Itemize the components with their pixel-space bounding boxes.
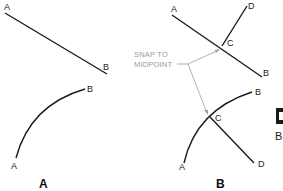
- panel-b-line-label-c: C: [227, 38, 234, 48]
- snap-leader-arrowhead-upper: [215, 49, 220, 53]
- panel-b-arc-label-b: B: [255, 87, 261, 97]
- panel-b-straight-line: [172, 15, 262, 77]
- panel-b-caption: B: [216, 177, 225, 191]
- snap-annotation-line1: SNAP TO: [134, 50, 168, 59]
- diagram-canvas: A B A B A A D C B A B C D SNAP TO MIDPOI…: [0, 0, 283, 191]
- panel-a-arc: [16, 89, 85, 158]
- panel-a-arc-label-a: A: [11, 161, 17, 171]
- panel-a-caption: A: [39, 177, 48, 191]
- panel-a-straight-line: [5, 13, 107, 74]
- snap-annotation-line2: MIDPOINT: [134, 60, 172, 69]
- clipped-right-label: B: [275, 130, 282, 142]
- panel-b-arc: [184, 92, 252, 163]
- panel-b-line-label-a: A: [171, 4, 177, 14]
- panel-b-line-label-d: D: [248, 1, 255, 11]
- panel-b: A D C B A B C D SNAP TO MIDPOINT B: [134, 1, 269, 191]
- panel-a: A B A B A: [4, 2, 109, 191]
- panel-b-arc-label-c: C: [215, 113, 222, 123]
- panel-b-branch-line-cd: [222, 6, 247, 46]
- snap-leader-arrowhead-lower: [204, 110, 208, 115]
- snap-leader-line-lower: [188, 64, 207, 113]
- panel-b-arc-label-a: A: [179, 162, 185, 172]
- panel-b-line-label-b: B: [263, 68, 269, 78]
- panel-a-line-label-a: A: [4, 2, 10, 12]
- clipped-icon-inner: [279, 112, 283, 120]
- panel-b-branch-arc-cd: [210, 117, 254, 163]
- panel-b-arc-label-d: D: [258, 159, 265, 169]
- panel-a-line-label-b: B: [103, 62, 109, 72]
- snap-leader-line-upper: [177, 50, 219, 64]
- panel-a-arc-label-b: B: [87, 84, 93, 94]
- clipped-right-content: B: [275, 108, 283, 142]
